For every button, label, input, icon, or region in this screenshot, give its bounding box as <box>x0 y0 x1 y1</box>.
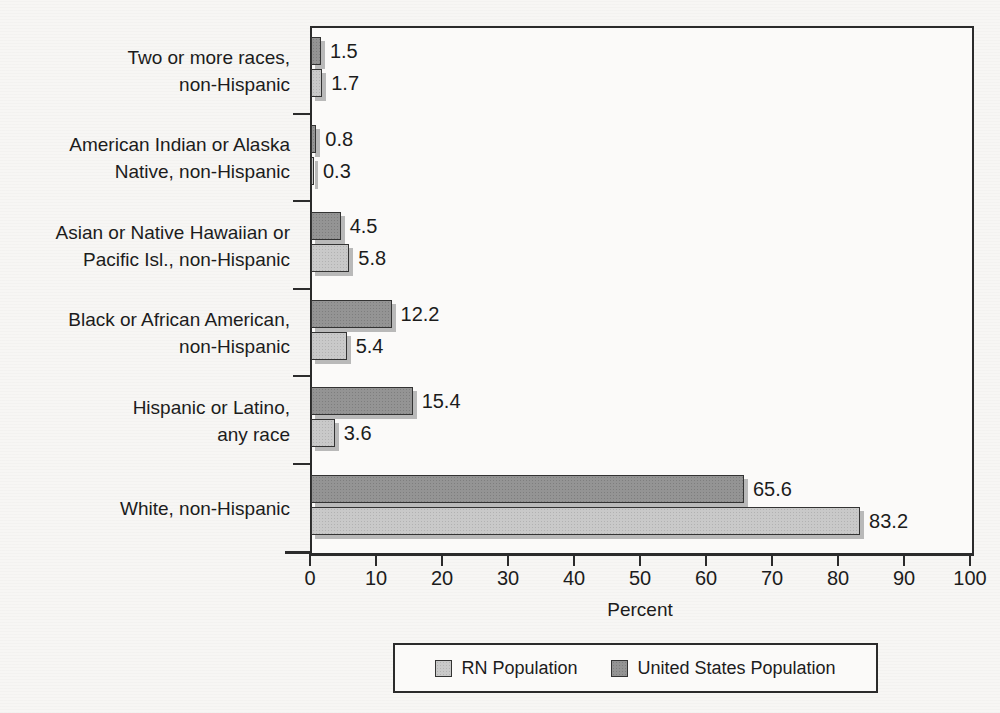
bar-rn <box>311 419 335 447</box>
x-axis-tick <box>639 554 641 566</box>
x-axis-tick-label: 70 <box>742 567 802 590</box>
category-label-line: Two or more races, <box>0 44 290 71</box>
legend-box: RN PopulationUnited States Population <box>393 643 878 693</box>
category-label-line: American Indian or Alaska <box>0 131 290 158</box>
bar-value-label: 1.7 <box>331 69 359 97</box>
bar-us <box>311 300 392 328</box>
bar-us <box>311 212 341 240</box>
bar-us <box>311 125 316 153</box>
x-axis-tick <box>441 554 443 566</box>
x-axis-tick-label: 90 <box>874 567 934 590</box>
legend-swatch-icon <box>435 660 452 677</box>
bar-us <box>311 37 321 65</box>
bar-value-label: 15.4 <box>422 387 461 415</box>
category-label-line: non-Hispanic <box>0 71 290 98</box>
category-label-line: any race <box>0 421 290 448</box>
x-axis-tick <box>309 554 311 566</box>
legend-item-us: United States Population <box>611 658 835 679</box>
category-label: American Indian or AlaskaNative, non-His… <box>0 131 290 185</box>
category-tick <box>293 288 310 290</box>
category-label-line: Black or African American, <box>0 306 290 333</box>
category-label: White, non-Hispanic <box>0 495 290 522</box>
bar-us <box>311 475 744 503</box>
category-label: Black or African American,non-Hispanic <box>0 306 290 360</box>
legend-item-rn: RN Population <box>435 658 577 679</box>
axis-extension <box>285 551 310 554</box>
bar-us <box>311 387 413 415</box>
x-axis-title: Percent <box>310 599 970 621</box>
bar-value-label: 5.4 <box>356 332 384 360</box>
x-axis-tick-label: 50 <box>610 567 670 590</box>
category-label-line: non-Hispanic <box>0 333 290 360</box>
x-axis-tick-label: 10 <box>346 567 406 590</box>
category-label-line: Hispanic or Latino, <box>0 394 290 421</box>
category-tick <box>293 113 310 115</box>
x-axis-tick <box>903 554 905 566</box>
x-axis-tick <box>573 554 575 566</box>
category-tick <box>293 200 310 202</box>
bar-value-label: 0.3 <box>323 157 351 185</box>
category-label-line: Native, non-Hispanic <box>0 158 290 185</box>
x-axis-tick-label: 100 <box>940 567 1000 590</box>
category-tick <box>293 375 310 377</box>
x-axis-tick-label: 0 <box>280 567 340 590</box>
bar-rn <box>311 332 347 360</box>
x-axis-tick-label: 60 <box>676 567 736 590</box>
bar-rn <box>311 507 860 535</box>
x-axis-tick-label: 30 <box>478 567 538 590</box>
x-axis-tick <box>705 554 707 566</box>
bar-value-label: 3.6 <box>344 419 372 447</box>
x-axis-tick-label: 40 <box>544 567 604 590</box>
legend-label: United States Population <box>637 658 835 679</box>
bar-value-label: 5.8 <box>358 244 386 272</box>
category-label-line: Asian or Native Hawaiian or <box>0 219 290 246</box>
bar-value-label: 4.5 <box>350 212 378 240</box>
bar-value-label: 12.2 <box>401 300 440 328</box>
bar-value-label: 0.8 <box>325 125 353 153</box>
category-tick <box>293 463 310 465</box>
category-label: Hispanic or Latino,any race <box>0 394 290 448</box>
bar-rn <box>311 244 349 272</box>
x-axis-tick <box>771 554 773 566</box>
scanned-chart-page: Two or more races,non-Hispanic1.51.7Amer… <box>0 0 1000 713</box>
category-label-line: Pacific Isl., non-Hispanic <box>0 246 290 273</box>
bar-value-label: 65.6 <box>753 475 792 503</box>
x-axis-tick <box>969 554 971 566</box>
x-axis-tick <box>837 554 839 566</box>
x-axis-tick-label: 20 <box>412 567 472 590</box>
bar-rn <box>311 157 314 185</box>
legend-swatch-icon <box>611 660 628 677</box>
x-axis-tick <box>375 554 377 566</box>
category-label-line: White, non-Hispanic <box>0 495 290 522</box>
x-axis-tick <box>507 554 509 566</box>
category-label: Two or more races,non-Hispanic <box>0 44 290 98</box>
bar-value-label: 1.5 <box>330 37 358 65</box>
legend-label: RN Population <box>461 658 577 679</box>
bar-rn <box>311 69 322 97</box>
category-label: Asian or Native Hawaiian orPacific Isl.,… <box>0 219 290 273</box>
bar-value-label: 83.2 <box>869 507 908 535</box>
x-axis-tick-label: 80 <box>808 567 868 590</box>
